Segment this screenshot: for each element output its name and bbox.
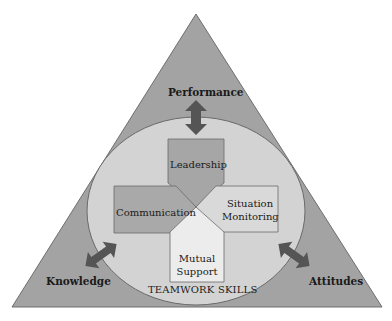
knowledge-label: Knowledge [46,275,111,287]
communication-label: Communication [116,206,192,219]
leadership-label: Leadership [170,158,224,171]
attitudes-label: Attitudes [309,275,363,287]
situation-label: Situation [222,197,278,210]
support-label: Support [170,265,224,278]
performance-label: Performance [168,86,244,98]
teamwork-skills-label: TEAMWORK SKILLS [148,284,258,295]
mutual-support-label: Mutual Support [170,252,224,278]
monitoring-label: Monitoring [222,210,278,223]
situation-monitoring-label: Situation Monitoring [222,197,278,223]
mutual-label: Mutual [170,252,224,265]
